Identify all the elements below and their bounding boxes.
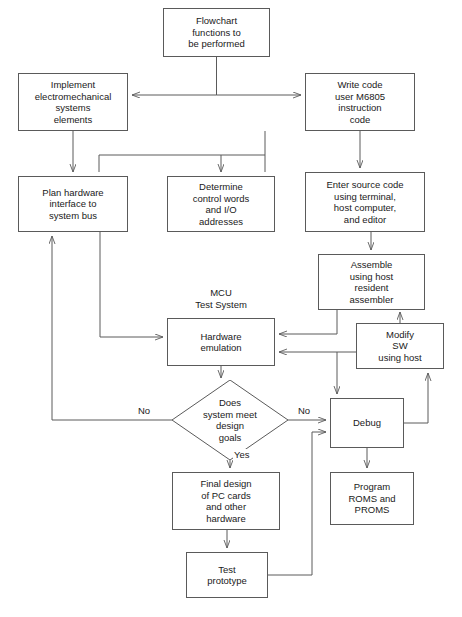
node-hardware-emulation[interactable]: Hardware emulation bbox=[167, 318, 275, 366]
edge-label-yes: Yes bbox=[233, 449, 251, 460]
node-test-prototype[interactable]: Test prototype bbox=[186, 552, 268, 598]
node-implement-electromechanical[interactable]: Implement electromechanical systems elem… bbox=[18, 73, 128, 131]
node-debug[interactable]: Debug bbox=[330, 398, 404, 448]
node-flowchart-functions[interactable]: Flowchart functions to be performed bbox=[163, 8, 270, 57]
edge-label-no-left: No bbox=[137, 405, 151, 416]
flowchart-canvas: Flowchart functions to be performed Impl… bbox=[0, 0, 462, 617]
edge-label-no-right: No bbox=[297, 405, 311, 416]
node-determine-control-words[interactable]: Determine control words and I/O addresse… bbox=[167, 176, 275, 232]
node-modify-sw[interactable]: Modify SW using host bbox=[356, 323, 444, 369]
node-does-system-meet-design-goals[interactable]: Does system meet design goals bbox=[172, 380, 288, 460]
node-write-code[interactable]: Write code user M6805 instruction code bbox=[305, 73, 415, 131]
label-mcu-test-system: MCU Test System bbox=[176, 287, 266, 310]
node-plan-hardware[interactable]: Plan hardware interface to system bus bbox=[18, 176, 128, 232]
node-program-roms-proms[interactable]: Program ROMS and PROMS bbox=[330, 472, 414, 525]
node-enter-source-code[interactable]: Enter source code using terminal, host c… bbox=[305, 172, 425, 232]
node-assemble-using-host[interactable]: Assemble using host resident assembler bbox=[318, 254, 425, 310]
node-final-design-pc-cards[interactable]: Final design of PC cards and other hardw… bbox=[172, 472, 280, 530]
diamond-label: Does system meet design goals bbox=[172, 380, 288, 460]
